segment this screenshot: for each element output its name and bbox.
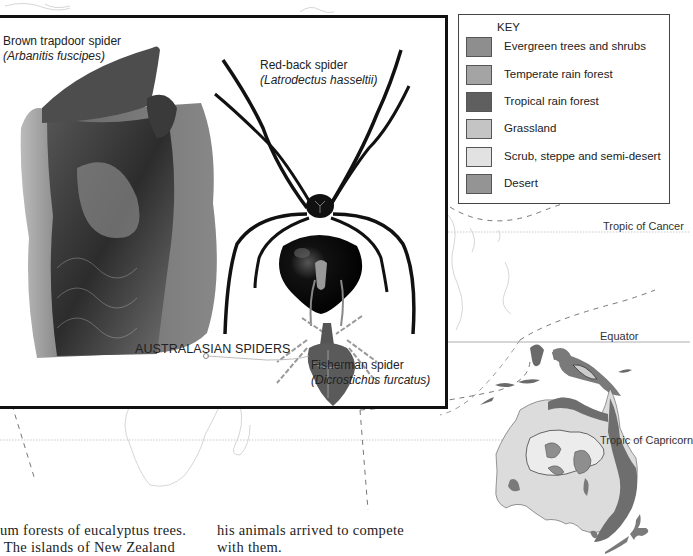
key-label: Grassland (504, 122, 556, 134)
evergreen-swatch (466, 37, 492, 57)
fisherman-spider-common-name: Fisherman spider (311, 358, 404, 372)
key-item-grassland: Grassland (466, 119, 666, 143)
key-label: Scrub, steppe and semi-desert (504, 150, 661, 162)
body-text-line: um forests of eucalyptus trees. (0, 522, 186, 539)
redback-spider-common-name: Red-back spider (260, 58, 347, 72)
tropical-rain-forest-swatch (466, 92, 492, 112)
tropic-of-cancer-label: Tropic of Cancer (603, 220, 684, 232)
body-text-line: with them. (217, 539, 404, 556)
tropic-of-capricorn-label: Tropic of Capricorn (600, 434, 693, 446)
trapdoor-spider-latin-name: (Arbanitis fuscipes) (3, 49, 121, 64)
body-text-line: his animals arrived to compete (217, 522, 404, 539)
body-text-line: The islands of New Zealand (0, 539, 186, 556)
temperate-rain-forest-swatch (466, 65, 492, 85)
key-item-tropical-rain-forest: Tropical rain forest (466, 92, 666, 116)
fisherman-spider-caption: Fisherman spider (Dicrostichus furcatus) (311, 358, 430, 388)
key-label: Evergreen trees and shrubs (504, 40, 646, 52)
key-title: KEY (497, 21, 520, 33)
key-item-temperate-rain-forest: Temperate rain forest (466, 65, 666, 89)
scrub-swatch (466, 147, 492, 167)
body-text-column-1: um forests of eucalyptus trees. The isla… (0, 522, 186, 556)
redback-spider-illustration (215, 50, 414, 334)
key-label: Tropical rain forest (504, 95, 599, 107)
key-item-evergreen: Evergreen trees and shrubs (466, 37, 666, 61)
trapdoor-spider-common-name: Brown trapdoor spider (3, 34, 121, 48)
spiders-inset: Brown trapdoor spider (Arbanitis fuscipe… (0, 15, 448, 409)
equator-label: Equator (600, 330, 639, 342)
australia-vegetation (496, 388, 638, 542)
redback-spider-caption: Red-back spider (Latrodectus hasseltii) (260, 58, 377, 88)
key-item-desert: Desert (466, 174, 666, 198)
trapdoor-spider-caption: Brown trapdoor spider (Arbanitis fuscipe… (3, 34, 121, 64)
redback-spider-latin-name: (Latrodectus hasseltii) (260, 73, 377, 88)
body-text-column-2: his animals arrived to compete with them… (217, 522, 404, 556)
key-label: Temperate rain forest (504, 68, 613, 80)
key-item-scrub: Scrub, steppe and semi-desert (466, 147, 666, 171)
inset-title: AUSTRALASIAN SPIDERS (135, 342, 291, 356)
fisherman-spider-latin-name: (Dicrostichus furcatus) (311, 373, 430, 388)
map-key: KEY Evergreen trees and shrubs Temperate… (458, 14, 670, 204)
desert-swatch (466, 174, 492, 194)
key-label: Desert (504, 177, 538, 189)
grassland-swatch (466, 119, 492, 139)
